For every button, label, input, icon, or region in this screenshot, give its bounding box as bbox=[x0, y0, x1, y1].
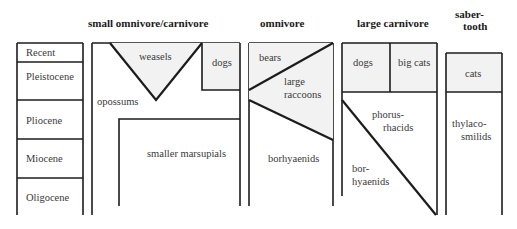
label-dogs-large: dogs bbox=[353, 57, 373, 68]
header-large-carnivore: large carnivore bbox=[357, 17, 429, 29]
label-bears: bears bbox=[259, 52, 281, 63]
header-omnivore: omnivore bbox=[260, 17, 305, 29]
epoch-recent: Recent bbox=[26, 47, 55, 58]
epoch-pleistocene: Pleistocene bbox=[26, 71, 74, 82]
label-borhyaenids-large-1: bor- bbox=[352, 163, 370, 174]
label-cats: cats bbox=[465, 68, 481, 79]
label-phorusrhacids-1: phorus- bbox=[372, 109, 405, 120]
epoch-column: Recent Pleistocene Pliocene Miocene Olig… bbox=[17, 43, 83, 215]
epoch-pliocene: Pliocene bbox=[26, 115, 62, 126]
label-phorusrhacids-2: rhacids bbox=[383, 122, 413, 133]
label-large-raccoons-2: raccoons bbox=[284, 89, 321, 100]
label-large-raccoons-1: large bbox=[284, 76, 305, 87]
label-thylacosmilids-1: thylaco- bbox=[452, 118, 487, 129]
header-saber-tooth-line2: tooth bbox=[463, 20, 487, 32]
label-smaller-marsupials: smaller marsupials bbox=[147, 148, 226, 159]
label-borhyaenids-omnivore: borhyaenids bbox=[268, 153, 319, 164]
small-omnivore-carnivore-guild: weasels dogs opossums smaller marsupials bbox=[92, 43, 240, 215]
header-saber-tooth-line1: saber- bbox=[455, 8, 484, 20]
label-dogs-small: dogs bbox=[212, 57, 232, 68]
header-small-omnivore-carnivore: small omnivore/carnivore bbox=[88, 17, 208, 29]
label-big-cats: big cats bbox=[398, 57, 430, 68]
guild-diagram: small omnivore/carnivore omnivore large … bbox=[0, 0, 517, 229]
label-opossums: opossums bbox=[97, 96, 138, 107]
label-borhyaenids-large-2: hyaenids bbox=[352, 176, 389, 187]
saber-tooth-guild: cats thylaco- smilids bbox=[446, 53, 502, 215]
epoch-miocene: Miocene bbox=[26, 153, 63, 164]
large-carnivore-guild: dogs big cats phorus- rhacids bor- hyaen… bbox=[342, 43, 437, 215]
label-weasels: weasels bbox=[139, 51, 172, 62]
label-thylacosmilids-2: smilids bbox=[461, 131, 491, 142]
epoch-oligocene: Oligocene bbox=[26, 192, 69, 203]
omnivore-guild: bears large raccoons borhyaenids bbox=[249, 43, 333, 206]
